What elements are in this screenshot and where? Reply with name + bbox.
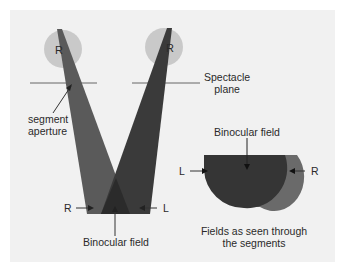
spectacle-plane-line-1: Spectacle <box>204 71 250 83</box>
spectacle-plane-label: Spectacle plane <box>204 71 250 95</box>
left-eye-label: R <box>55 44 63 56</box>
segment-aperture-label: segment aperture <box>28 113 68 137</box>
field-l-label: L <box>179 165 185 177</box>
right-eye-label: R <box>166 42 174 54</box>
fields-caption: Fields as seen through the segments <box>190 225 318 249</box>
segment-aperture-pointer <box>53 86 71 113</box>
binocular-field-bottom-label: Binocular field <box>83 236 149 248</box>
spectacle-plane-line-2: plane <box>204 83 250 95</box>
fields-caption-line-2: the segments <box>190 237 318 249</box>
right-eye-beam <box>101 28 172 214</box>
segment-aperture-line-2: aperture <box>28 125 68 137</box>
fields-caption-line-1: Fields as seen through <box>190 225 318 237</box>
binocular-field-right-label: Binocular field <box>214 126 280 138</box>
beam-l-label: L <box>163 202 169 214</box>
segment-aperture-line-1: segment <box>28 113 68 125</box>
field-r-label: R <box>311 165 319 177</box>
beam-r-label: R <box>64 202 72 214</box>
